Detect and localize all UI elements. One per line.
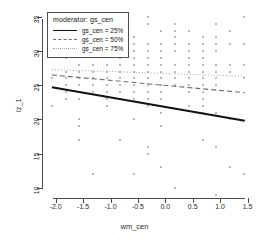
legend: moderator: gs_cen gs_cen = 25%gs_cen = 5… — [47, 12, 129, 58]
x-tick-label: 1.5 — [243, 203, 253, 210]
x-tick-label: 0.0 — [160, 203, 170, 210]
x-tick-label: -0.5 — [132, 203, 144, 210]
y-axis-title: lz_1 — [14, 98, 23, 112]
legend-entries: gs_cen = 25%gs_cen = 50%gs_cen = 75% — [53, 26, 123, 53]
legend-entry: gs_cen = 75% — [53, 44, 123, 53]
x-tick-label: 0.5 — [188, 203, 198, 210]
legend-line-swatch-icon — [53, 27, 77, 35]
legend-entry-label: gs_cen = 75% — [82, 45, 123, 52]
x-tick-label: 1.0 — [215, 203, 225, 210]
x-tick-label: -1.5 — [77, 203, 89, 210]
x-axis-line — [53, 198, 245, 199]
legend-entry-label: gs_cen = 50% — [82, 36, 123, 43]
legend-entry: gs_cen = 50% — [53, 35, 123, 44]
legend-line-swatch-icon — [53, 45, 77, 53]
legend-title: moderator: gs_cen — [53, 16, 123, 23]
regression-line — [52, 75, 245, 93]
legend-entry-label: gs_cen = 25% — [82, 27, 123, 34]
x-tick-label: -2.0 — [50, 203, 62, 210]
scatter-plot-figure: 101520253035 -2.0-1.5-1.0-0.50.00.51.01.… — [0, 0, 269, 242]
regression-line — [52, 69, 245, 76]
x-axis-title: wm_cen — [0, 222, 269, 231]
legend-line-swatch-icon — [53, 36, 77, 44]
legend-entry: gs_cen = 25% — [53, 26, 123, 35]
x-tick-label: -1.0 — [104, 203, 116, 210]
regression-line — [52, 87, 245, 120]
